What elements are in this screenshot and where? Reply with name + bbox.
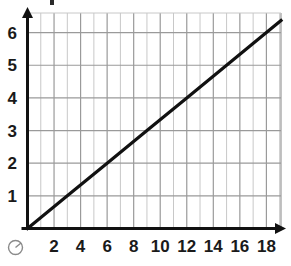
x-axis-tick-labels: 24681012141618 <box>49 237 276 256</box>
x-axis-tick-label: 8 <box>129 237 138 256</box>
x-axis-tick-label: 2 <box>49 237 58 256</box>
x-axis-tick-label: 4 <box>76 237 86 256</box>
chart-canvas: 123456 24681012141618 <box>0 0 291 266</box>
x-axis-tick-label: 6 <box>102 237 111 256</box>
y-axis-tick-label: 6 <box>8 24 17 43</box>
x-axis-tick-label: 12 <box>177 237 196 256</box>
axis-top-stub-mark <box>50 0 54 5</box>
x-axis-tick-label: 10 <box>151 237 170 256</box>
y-axis-tick-label: 1 <box>8 187 17 206</box>
line-chart: 123456 24681012141618 <box>0 0 291 266</box>
y-axis-tick-label: 5 <box>8 56 17 75</box>
y-axis-tick-label: 3 <box>8 122 17 141</box>
x-axis-tick-label: 18 <box>257 237 276 256</box>
y-axis-tick-label: 2 <box>8 154 17 173</box>
y-axis-tick-label: 4 <box>8 89 18 108</box>
x-axis-tick-label: 14 <box>204 237 223 256</box>
x-axis-tick-label: 16 <box>230 237 249 256</box>
